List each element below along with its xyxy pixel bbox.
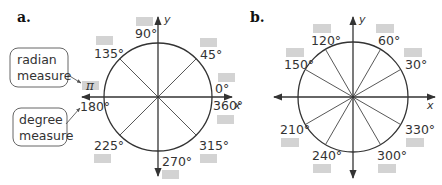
blank-360[interactable] (217, 115, 234, 124)
part-a: a. y x 90° 45° 0° 360° 135° π 180° 225° … (10, 9, 243, 179)
angle-270: 270° (162, 154, 192, 169)
unit-circle-diagram: a. y x 90° 45° 0° 360° 135° π 180° 225° … (0, 0, 442, 185)
blank-135[interactable] (96, 36, 113, 45)
angle-30: 30° (405, 57, 427, 72)
blank-300[interactable] (378, 164, 396, 173)
blank-60[interactable] (376, 24, 394, 33)
blank-330[interactable] (406, 138, 424, 147)
blank-30[interactable] (404, 48, 422, 57)
angle-300: 300° (377, 148, 407, 163)
x-axis-label-b: x (426, 99, 434, 112)
part-a-label: a. (17, 9, 31, 25)
angle-180: 180° (80, 99, 110, 114)
angle-150: 150° (284, 57, 314, 72)
svg-text:degree: degree (19, 112, 63, 127)
angle-315: 315° (199, 138, 229, 153)
y-axis-label-a: y (163, 13, 171, 26)
angle-135: 135° (94, 46, 124, 61)
svg-text:measure: measure (19, 128, 74, 143)
angle-240: 240° (312, 148, 342, 163)
angle-60: 60° (378, 33, 400, 48)
blank-45[interactable] (200, 38, 217, 47)
svg-text:measure: measure (17, 68, 72, 83)
blank-150[interactable] (286, 48, 304, 57)
blank-240[interactable] (313, 164, 331, 173)
angle-120: 120° (311, 33, 341, 48)
angle-0: 0° (215, 81, 229, 96)
svg-text:radian: radian (17, 52, 57, 67)
angle-225: 225° (94, 138, 124, 153)
radian-example-pi: π (85, 79, 95, 93)
angle-45: 45° (200, 47, 222, 62)
blank-270[interactable] (162, 170, 179, 179)
blank-90[interactable] (136, 17, 153, 26)
angle-330: 330° (405, 122, 435, 137)
blank-210[interactable] (281, 138, 299, 147)
blank-120[interactable] (313, 24, 331, 33)
y-axis-label-b: y (358, 13, 366, 26)
blank-225[interactable] (94, 154, 111, 163)
angle-210: 210° (280, 122, 310, 137)
part-b: b. y x 120° 60° 150° 30° 210° 330° 240° … (250, 9, 435, 178)
part-b-label: b. (250, 9, 265, 25)
callout-arrow-degree (66, 108, 80, 124)
blank-315[interactable] (200, 154, 217, 163)
angle-360: 360° (213, 98, 243, 113)
callout-radian-measure: radian measure (10, 48, 81, 87)
angle-90: 90° (135, 26, 157, 41)
callout-degree-measure: degree measure (13, 108, 80, 146)
